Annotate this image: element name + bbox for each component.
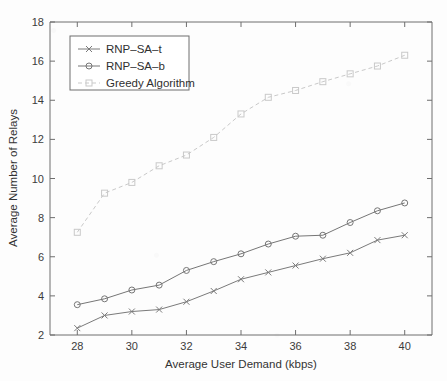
y-tick-label: 8 <box>38 212 44 224</box>
x-tick-label: 34 <box>235 340 247 352</box>
y-axis-title: Average Number of Relays <box>7 109 19 247</box>
x-tick-label: 40 <box>399 340 411 352</box>
y-tick-label: 12 <box>32 133 44 145</box>
chart-legend: RNP–SA–tRNP–SA–bGreedy Algorithm <box>70 36 195 90</box>
x-tick-label: 32 <box>180 340 192 352</box>
y-tick-label: 16 <box>32 55 44 67</box>
figure-canvas: 28303234363840 24681012141618 Average Us… <box>0 0 447 381</box>
legend-label: RNP–SA–t <box>106 43 162 55</box>
x-tick-label: 28 <box>71 340 83 352</box>
y-tick-label: 14 <box>32 94 44 106</box>
x-axis-title: Average User Demand (kbps) <box>165 358 317 370</box>
line-chart: 28303234363840 24681012141618 Average Us… <box>0 0 447 381</box>
legend-label: Greedy Algorithm <box>106 77 195 89</box>
x-tick-label: 36 <box>289 340 301 352</box>
y-tick-label: 18 <box>32 16 44 28</box>
y-tick-label: 4 <box>38 290 44 302</box>
y-tick-label: 2 <box>38 329 44 341</box>
y-tick-label: 6 <box>38 251 44 263</box>
legend-label: RNP–SA–b <box>106 60 165 72</box>
chart-background <box>0 0 447 381</box>
x-tick-label: 38 <box>344 340 356 352</box>
y-tick-label: 10 <box>32 173 44 185</box>
x-tick-label: 30 <box>126 340 138 352</box>
